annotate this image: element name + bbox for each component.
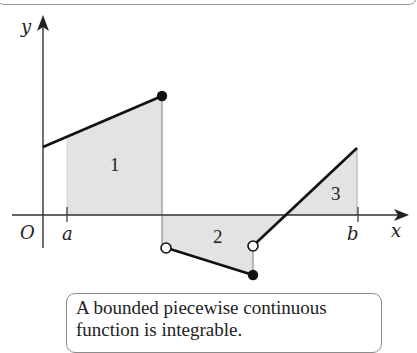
open-dot-1 [161,243,171,253]
closed-dot-2 [248,270,258,280]
tick-a-label: a [62,223,73,244]
x-axis-label: x [391,220,401,241]
caption-box: A bounded piecewise continuous function … [66,293,382,353]
caption-line-2: function is integrable. [76,319,372,341]
origin-label: O [20,222,35,243]
closed-dot-1 [157,91,167,101]
open-dot-2 [248,241,258,251]
region-1-label: 1 [110,154,120,175]
region-2-label: 2 [213,226,223,247]
y-axis-label: y [20,16,32,37]
caption-line-1: A bounded piecewise continuous [76,297,372,319]
tick-b-label: b [347,223,359,244]
region-3-label: 3 [331,183,341,204]
